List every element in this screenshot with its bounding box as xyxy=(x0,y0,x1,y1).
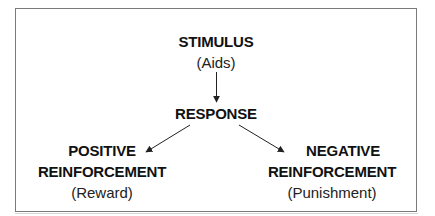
arrow-response-to-negative xyxy=(239,125,284,152)
arrow-response-to-positive xyxy=(146,125,190,152)
arrows-layer xyxy=(0,0,435,216)
